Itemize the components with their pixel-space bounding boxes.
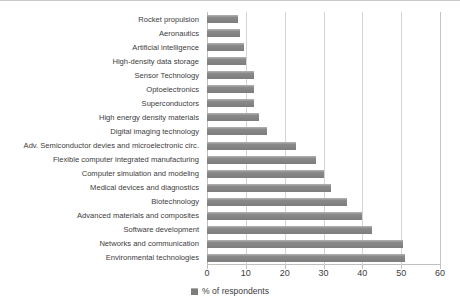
- bar-row: [207, 14, 440, 24]
- category-label: Rocket propulsion: [0, 15, 203, 24]
- bar[interactable]: [207, 170, 324, 178]
- category-label: Advanced materials and composites: [0, 211, 203, 220]
- bar-row: [207, 253, 440, 263]
- category-label: Adv. Semiconductor devies and microelect…: [0, 141, 203, 150]
- bar-row: [207, 197, 440, 207]
- value-tick-label: 0: [195, 268, 219, 278]
- bar-row: [207, 225, 440, 235]
- bar[interactable]: [207, 43, 244, 51]
- bar-series: [207, 12, 440, 265]
- category-label: Networks and communication: [0, 239, 203, 248]
- bar[interactable]: [207, 142, 296, 150]
- bar-row: [207, 239, 440, 249]
- bar[interactable]: [207, 184, 331, 192]
- legend-label: % of respondents: [202, 286, 269, 296]
- bar-row: [207, 112, 440, 122]
- category-label: Flexible computer integrated manufacturi…: [0, 155, 203, 164]
- bar[interactable]: [207, 226, 372, 234]
- bar-chart: Rocket propulsionAeronauticsArtificial i…: [0, 0, 460, 305]
- bar-row: [207, 155, 440, 165]
- bar[interactable]: [207, 99, 254, 107]
- bar[interactable]: [207, 57, 246, 65]
- bar-row: [207, 141, 440, 151]
- bar[interactable]: [207, 198, 347, 206]
- value-tick-label: 50: [389, 268, 413, 278]
- bar-row: [207, 70, 440, 80]
- bar[interactable]: [207, 212, 362, 220]
- value-tick-label: 40: [350, 268, 374, 278]
- category-label: Computer simulation and modeling: [0, 169, 203, 178]
- bar[interactable]: [207, 240, 403, 248]
- value-tick-label: 60: [428, 268, 452, 278]
- category-label: Superconductors: [0, 99, 203, 108]
- plot-area: [207, 12, 440, 265]
- category-label: Artificial intelligence: [0, 43, 203, 52]
- bar[interactable]: [207, 156, 316, 164]
- category-label: Biotechnology: [0, 197, 203, 206]
- value-tick-label: 10: [234, 268, 258, 278]
- bar-row: [207, 56, 440, 66]
- category-label: Aeronautics: [0, 29, 203, 38]
- bar-row: [207, 42, 440, 52]
- bar[interactable]: [207, 254, 405, 262]
- bar[interactable]: [207, 71, 254, 79]
- bar[interactable]: [207, 127, 267, 135]
- bar-row: [207, 169, 440, 179]
- category-label: Software development: [0, 225, 203, 234]
- bar-row: [207, 183, 440, 193]
- legend-swatch-icon: [191, 288, 198, 295]
- category-label: Digital imaging technology: [0, 127, 203, 136]
- category-axis-labels: Rocket propulsionAeronauticsArtificial i…: [0, 12, 203, 265]
- value-tick-label: 30: [312, 268, 336, 278]
- category-label: Sensor Technology: [0, 71, 203, 80]
- bar[interactable]: [207, 15, 238, 23]
- category-label: Optoelectronics: [0, 85, 203, 94]
- bar-row: [207, 98, 440, 108]
- bar[interactable]: [207, 29, 240, 37]
- category-label: High energy density materials: [0, 113, 203, 122]
- bar-row: [207, 211, 440, 221]
- bar-row: [207, 126, 440, 136]
- bar-row: [207, 28, 440, 38]
- value-tick-label: 20: [273, 268, 297, 278]
- top-divider: [0, 0, 460, 1]
- bar-row: [207, 84, 440, 94]
- category-label: High-density data storage: [0, 57, 203, 66]
- bar[interactable]: [207, 85, 254, 93]
- legend: % of respondents: [0, 286, 460, 296]
- gridline: [440, 12, 441, 265]
- category-label: Medical devices and diagnostics: [0, 183, 203, 192]
- category-label: Environmental technologies: [0, 253, 203, 262]
- bar[interactable]: [207, 113, 259, 121]
